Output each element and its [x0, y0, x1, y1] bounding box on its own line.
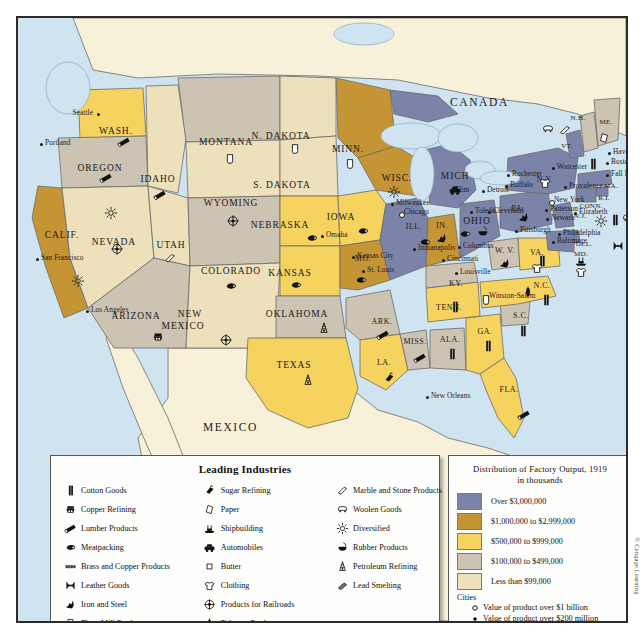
city-marker — [458, 246, 461, 249]
output-band-label: $1,000,000 to $2,999,000 — [491, 517, 575, 526]
legend-industry-label: Flour Mill Products — [81, 619, 146, 623]
legend-industry-row: Brass and Copper Products — [59, 557, 199, 576]
output-band-row: Over $3,000,000 — [457, 493, 628, 510]
legend-industry-label: Clothing — [221, 581, 250, 590]
legend-industry-label: Paper — [221, 505, 240, 514]
paper-icon — [199, 503, 221, 516]
iron-icon — [59, 598, 81, 611]
lead-icon — [331, 579, 353, 592]
legend-industry-row: Shipbuilding — [199, 519, 331, 538]
output-band-row: $100,000 to $499,000 — [457, 553, 628, 570]
output-band-label: $500,000 to $999,000 — [491, 537, 563, 546]
city-marker — [399, 212, 405, 218]
legend-leading-industries: Leading Industries Cotton GoodsCopper Re… — [50, 455, 440, 623]
marble-icon — [331, 484, 353, 497]
legend-industry-label: Sugar Refining — [221, 486, 271, 495]
output-band-swatch — [457, 533, 482, 550]
output-band-swatch — [457, 513, 482, 530]
city-marker — [606, 162, 609, 165]
city-marker — [549, 200, 555, 206]
city-marker — [608, 152, 611, 155]
butter-icon — [199, 560, 221, 573]
legend-industry-row: Products for Railroads — [199, 595, 331, 614]
city-marker — [488, 211, 491, 214]
city-marker — [482, 190, 485, 193]
legend-industry-label: Diversified — [353, 524, 390, 533]
legend-industry-row: Lumber Products — [59, 519, 199, 538]
city-marker — [352, 256, 355, 259]
city-marker — [505, 185, 508, 188]
output-band-row: $1,000,000 to $2,999,000 — [457, 513, 628, 530]
legend-industry-label: Meatpacking — [81, 543, 124, 552]
city-marker — [552, 241, 555, 244]
automobiles-icon — [199, 541, 221, 554]
shipbuilding-icon — [199, 522, 221, 535]
output-band-swatch — [457, 573, 482, 590]
legend-industries-columns: Cotton GoodsCopper RefiningLumber Produc… — [51, 481, 439, 623]
clothing-icon — [199, 579, 221, 592]
output-band-label: $100,000 to $499,000 — [491, 557, 563, 566]
legend-industry-label: Lumber Products — [81, 524, 138, 533]
flour-icon — [59, 617, 81, 623]
output-band-row: $500,000 to $999,000 — [457, 533, 628, 550]
city-marker — [426, 396, 429, 399]
legend-industry-label: Butter — [221, 562, 241, 571]
woolen-icon — [331, 503, 353, 516]
legend-industry-row: Flour Mill Products — [59, 614, 199, 623]
legend-industry-label: Tobacco Products — [221, 619, 279, 623]
legend-industry-label: Iron and Steel — [81, 600, 127, 609]
legend-industry-label: Automobiles — [221, 543, 263, 552]
legend-industry-label: Rubber Products — [353, 543, 408, 552]
legend-industries-title: Leading Industries — [51, 463, 439, 475]
legend-industry-column: Sugar RefiningPaperShipbuildingAutomobil… — [199, 481, 331, 623]
city-marker — [515, 230, 518, 233]
legend-cities-heading: Cities — [457, 593, 628, 602]
output-band-label: Over $3,000,000 — [491, 497, 546, 506]
legend-industry-label: Leather Goods — [81, 581, 129, 590]
city-marker — [484, 296, 487, 299]
city-marker — [86, 310, 89, 313]
legend-city-keys: Value of product over $1 billionValue of… — [449, 603, 628, 623]
legend-industry-label: Shipbuilding — [221, 524, 263, 533]
city-marker — [558, 233, 561, 236]
rubber-icon — [331, 541, 353, 554]
city-marker — [36, 258, 39, 261]
legend-industry-label: Products for Railroads — [221, 600, 295, 609]
cotton-icon — [59, 484, 81, 497]
city-key-row: Value of product over $200 million — [467, 614, 628, 623]
legend-industry-row: Cotton Goods — [59, 481, 199, 500]
city-marker — [470, 211, 473, 214]
legend-industry-row: Iron and Steel — [59, 595, 199, 614]
legend-industry-label: Lead Smelting — [353, 581, 401, 590]
city-marker — [564, 186, 567, 189]
city-marker — [606, 174, 609, 177]
output-band-label: Less than $99,000 — [491, 577, 551, 586]
legend-output-bands: Over $3,000,000$1,000,000 to $2,999,000$… — [449, 493, 628, 590]
map-frame: .st{stroke:#6b6b6b;stroke-width:.8;} .la… — [16, 16, 628, 623]
legend-industry-label: Woolen Goods — [353, 505, 402, 514]
output-band-swatch — [457, 553, 482, 570]
legend-industry-row: Woolen Goods — [331, 500, 431, 519]
legend-industry-label: Marble and Stone Products — [353, 486, 442, 495]
legend-output-title: Distribution of Factory Output, 1919 in … — [455, 464, 625, 486]
city-key-marker-solid — [467, 616, 483, 622]
city-marker — [391, 203, 394, 206]
legend-industry-column: Cotton GoodsCopper RefiningLumber Produc… — [59, 481, 199, 623]
legend-industry-column: Marble and Stone ProductsWoolen GoodsDiv… — [331, 481, 431, 623]
legend-industry-label: Brass and Copper Products — [81, 562, 170, 571]
brass-icon — [59, 560, 81, 573]
legend-industry-row: Lead Smelting — [331, 576, 431, 595]
legend-industry-row: Automobiles — [199, 538, 331, 557]
legend-industry-row: Butter — [199, 557, 331, 576]
legend-industry-row: Paper — [199, 500, 331, 519]
city-key-marker-hollow — [467, 605, 483, 611]
legend-output-title-line1: Distribution of Factory Output, 1919 — [473, 464, 607, 474]
legend-industry-label: Copper Refining — [81, 505, 136, 514]
city-marker — [362, 270, 365, 273]
city-key-row: Value of product over $1 billion — [467, 603, 628, 612]
legend-industry-label: Cotton Goods — [81, 486, 127, 495]
legend-output-title-line2: in thousands — [517, 475, 563, 485]
city-marker — [321, 235, 324, 238]
city-marker — [442, 259, 445, 262]
city-marker — [546, 218, 549, 221]
